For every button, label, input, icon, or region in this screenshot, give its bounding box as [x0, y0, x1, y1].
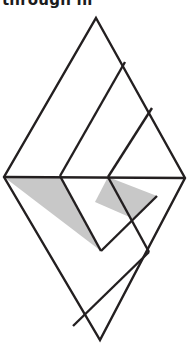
- figure-root: through hi: [0, 0, 193, 351]
- horizontal-diagonal: [4, 177, 185, 178]
- rhombus-diagram: [0, 0, 193, 351]
- caption-text: through hi: [2, 0, 93, 9]
